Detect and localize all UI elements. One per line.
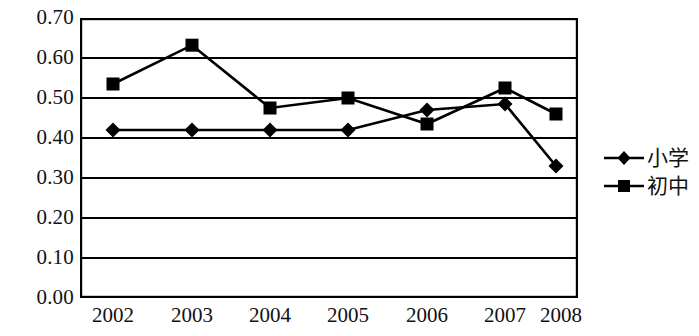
line-chart: 0.70 0.60 0.50 0.40 0.30 0.20 0.10 0.00 … bbox=[0, 0, 699, 336]
x-axis-tick-label: 2003 bbox=[152, 303, 232, 327]
x-axis-tick-label: 2006 bbox=[387, 303, 467, 327]
plot-background bbox=[80, 18, 578, 298]
data-point-square bbox=[264, 102, 277, 115]
data-point-square bbox=[186, 39, 199, 52]
square-marker-icon bbox=[604, 176, 644, 196]
data-point-square bbox=[342, 92, 355, 105]
plot-canvas bbox=[80, 18, 578, 298]
data-point-square bbox=[499, 82, 512, 95]
legend-item-chuzhong: 初中 bbox=[604, 172, 689, 200]
y-axis-tick-label: 0.60 bbox=[6, 47, 74, 68]
x-axis-tick-label: 2005 bbox=[308, 303, 388, 327]
plot-area bbox=[80, 18, 578, 298]
y-axis-tick-label: 0.70 bbox=[6, 7, 74, 28]
x-axis-labels: 2002 2003 2004 2005 2006 2007 2008 bbox=[80, 303, 580, 333]
y-axis-tick-label: 0.30 bbox=[6, 167, 74, 188]
chart-legend: 小学 初中 bbox=[604, 140, 699, 202]
data-point-square bbox=[421, 118, 434, 131]
x-axis-tick-label: 2004 bbox=[230, 303, 310, 327]
y-axis-tick-label: 0.20 bbox=[6, 207, 74, 228]
diamond-marker-icon bbox=[604, 148, 644, 168]
y-axis-tick-label: 0.00 bbox=[6, 287, 74, 308]
legend-item-xiaoxue: 小学 bbox=[604, 144, 689, 172]
y-axis-labels: 0.70 0.60 0.50 0.40 0.30 0.20 0.10 0.00 bbox=[0, 0, 74, 336]
legend-label: 小学 bbox=[647, 147, 689, 169]
legend-label: 初中 bbox=[647, 175, 689, 197]
data-point-square bbox=[550, 108, 563, 121]
x-axis-tick-label: 2002 bbox=[73, 303, 153, 327]
data-point-square bbox=[107, 78, 120, 91]
y-axis-tick-label: 0.50 bbox=[6, 87, 74, 108]
y-axis-tick-label: 0.40 bbox=[6, 127, 74, 148]
y-axis-tick-label: 0.10 bbox=[6, 247, 74, 268]
x-axis-tick-label: 2008 bbox=[521, 303, 601, 327]
